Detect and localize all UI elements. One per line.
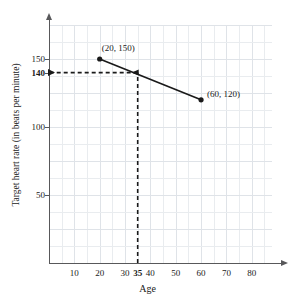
y-axis-title: Target heart rate (in beats per minute)	[11, 35, 21, 235]
data-point-marker	[97, 56, 102, 61]
data-point-marker	[198, 97, 203, 102]
guide-lines	[49, 73, 138, 263]
x-axis-title: Age	[0, 283, 295, 294]
chart-figure: 15014010050 102030354050607080 (20, 150)…	[0, 0, 295, 301]
series-line	[100, 59, 201, 100]
trend-line	[100, 59, 201, 100]
chart-overlay	[0, 0, 295, 301]
data-point-label: (20, 150)	[102, 43, 135, 53]
data-point-label: (60, 120)	[207, 89, 240, 99]
